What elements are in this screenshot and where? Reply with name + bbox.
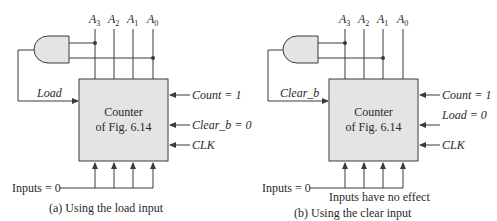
inputs-note: Inputs have no effect	[329, 191, 430, 203]
output-a0: A0	[147, 13, 158, 25]
feedback-label: Load	[37, 87, 62, 99]
output-a1: A1	[377, 13, 388, 25]
right-input-clk: CLK	[192, 139, 215, 151]
right-input-load: Load = 0	[442, 109, 487, 121]
and-gate	[34, 36, 69, 63]
inputs-label: Inputs = 0	[262, 182, 311, 194]
output-a2: A2	[358, 13, 369, 25]
right-input-clk: CLK	[442, 139, 465, 151]
caption: (b) Using the clear input	[294, 207, 411, 219]
box-title: Counter	[79, 106, 168, 118]
box-title: Counter	[329, 106, 418, 118]
right-input-clear: Clear_b = 0	[192, 119, 251, 131]
right-input-count: Count = 1	[442, 89, 491, 101]
caption: (a) Using the load input	[49, 202, 163, 214]
output-a3: A3	[89, 13, 100, 25]
box-subtitle: of Fig. 6.14	[329, 121, 418, 133]
inputs-label: Inputs = 0	[12, 182, 61, 194]
output-a0: A0	[397, 13, 408, 25]
output-a1: A1	[127, 13, 138, 25]
feedback-label: Clear_b	[280, 87, 319, 99]
diagram-canvas	[0, 0, 497, 221]
box-subtitle: of Fig. 6.14	[79, 121, 168, 133]
output-a3: A3	[339, 13, 350, 25]
output-a2: A2	[108, 13, 119, 25]
right-input-count: Count = 1	[192, 89, 241, 101]
and-gate	[283, 36, 318, 63]
